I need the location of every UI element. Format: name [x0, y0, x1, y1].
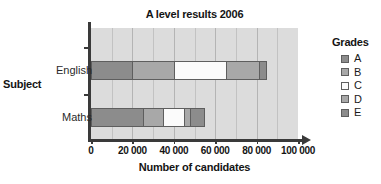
- legend-swatch-a: [341, 55, 349, 63]
- legend: Grades ABCDE: [332, 36, 369, 120]
- y-category-label: Maths: [62, 111, 92, 123]
- legend-item-d: D: [332, 93, 369, 106]
- x-axis-tick: [257, 140, 259, 144]
- bar-segment-b: [132, 61, 173, 80]
- x-axis-tick: [174, 140, 176, 144]
- bar-segment-e: [259, 61, 267, 80]
- legend-item-b: B: [332, 66, 369, 79]
- legend-items: ABCDE: [332, 52, 369, 119]
- x-tick-label: 0: [88, 145, 93, 156]
- x-tick-label: 80 000: [242, 145, 271, 156]
- gridline: [277, 28, 278, 140]
- gridline: [236, 28, 237, 140]
- legend-label: A: [354, 53, 361, 64]
- legend-swatch-e: [341, 109, 349, 117]
- y-axis-tick: [84, 47, 88, 49]
- x-axis-arrow-head: [302, 135, 311, 145]
- x-axis-title: Number of candidates: [91, 161, 298, 173]
- bar-segment-a: [91, 61, 132, 80]
- legend-title: Grades: [332, 36, 369, 48]
- legend-item-a: A: [332, 52, 369, 65]
- gridline: [257, 28, 258, 140]
- bar-segment-c: [163, 108, 184, 127]
- chart-title: A level results 2006: [91, 8, 298, 20]
- legend-swatch-b: [341, 68, 349, 76]
- legend-item-c: C: [332, 79, 369, 92]
- x-axis-tick: [132, 140, 134, 144]
- stacked-bar: [91, 61, 267, 80]
- gridline: [215, 28, 216, 140]
- x-tick-label: 60 000: [201, 145, 230, 156]
- x-tick-label: 20 000: [118, 145, 147, 156]
- bar-segment-e: [190, 108, 204, 127]
- y-category-label: English: [56, 64, 92, 76]
- bar-segment-b: [143, 108, 164, 127]
- y-axis-title: Subject: [3, 78, 41, 90]
- stacked-bar: [91, 108, 205, 127]
- legend-swatch-c: [341, 82, 349, 90]
- bar-segment-d: [226, 61, 259, 80]
- x-tick-label: 100 000: [281, 145, 315, 156]
- x-axis-line: [88, 139, 304, 142]
- legend-label: E: [354, 107, 361, 118]
- legend-label: D: [354, 94, 362, 105]
- x-axis-tick: [298, 140, 300, 144]
- legend-label: C: [354, 80, 362, 91]
- x-tick-label: 40 000: [159, 145, 188, 156]
- legend-item-e: E: [332, 106, 369, 119]
- legend-swatch-d: [341, 95, 349, 103]
- x-axis-tick: [91, 140, 93, 144]
- y-axis-tick: [84, 94, 88, 96]
- legend-label: B: [354, 67, 361, 78]
- bar-segment-a: [91, 108, 143, 127]
- bar-segment-c: [174, 61, 226, 80]
- chart-figure: A level results 2006 020 00040 00060 000…: [0, 0, 381, 184]
- x-axis-tick: [215, 140, 217, 144]
